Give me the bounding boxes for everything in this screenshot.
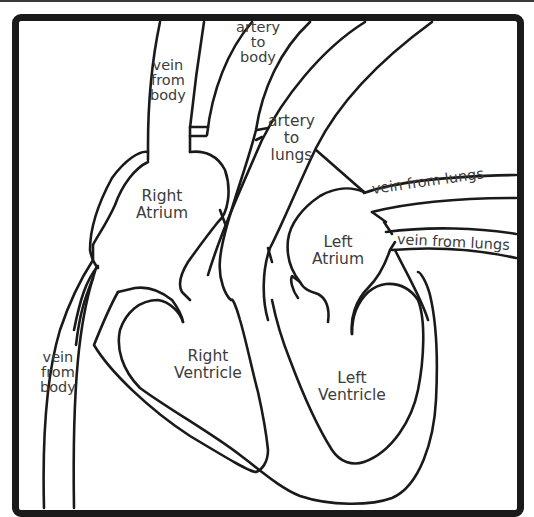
label-left-ventricle: Left Ventricle: [318, 370, 386, 404]
superior-vena-cava-right-wall: [190, 22, 204, 152]
label-left-atrium: Left Atrium: [312, 234, 364, 268]
label-vein-from-body-top: vein from body: [150, 58, 186, 103]
label-artery-to-lungs: artery to lungs: [268, 113, 315, 164]
vein-from-lungs-upper-bottom-wall: [372, 198, 516, 212]
label-vein-from-body-bottom: vein from body: [40, 350, 76, 395]
label-artery-to-body: artery to body: [236, 20, 280, 65]
heart-diagram-lines: [0, 0, 534, 517]
label-right-atrium: Right Atrium: [136, 188, 188, 222]
label-right-ventricle: Right Ventricle: [174, 348, 242, 382]
